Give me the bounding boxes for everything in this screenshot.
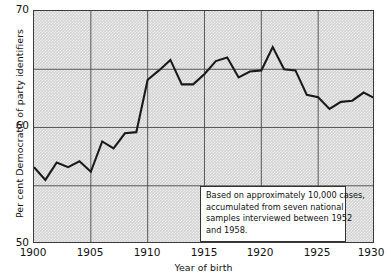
- chart-figure: Per cent Democratic of party identifiers…: [0, 0, 391, 277]
- x-tick-label-1930: 1930: [349, 246, 391, 258]
- annotation-line-1: Based on approximately 10,000 cases,: [206, 190, 340, 202]
- x-tick-label-1920: 1920: [238, 246, 282, 258]
- x-axis-title: Year of birth: [33, 262, 374, 273]
- annotation-box: Based on approximately 10,000 cases, acc…: [200, 186, 346, 242]
- y-tick-label-70: 70: [3, 3, 29, 15]
- x-tick-label-1900: 1900: [11, 246, 55, 258]
- x-tick-label-1905: 1905: [68, 246, 112, 258]
- data-series-line: [34, 47, 374, 180]
- annotation-line-3: samples interviewed between 1952: [206, 213, 340, 225]
- annotation-line-2: accumulated from seven national: [206, 202, 340, 214]
- y-tick-label-60: 60: [3, 119, 29, 131]
- x-tick-label-1925: 1925: [295, 246, 339, 258]
- annotation-line-4: and 1958.: [206, 225, 340, 237]
- x-tick-label-1915: 1915: [182, 246, 226, 258]
- x-tick-label-1910: 1910: [125, 246, 169, 258]
